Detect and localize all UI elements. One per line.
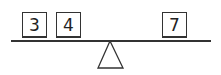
fulcrum-triangle-icon	[96, 40, 126, 70]
weight-box-right-1: 7	[162, 12, 187, 38]
weight-box-left-1: 3	[22, 12, 47, 38]
weight-box-left-2: 4	[56, 12, 81, 38]
